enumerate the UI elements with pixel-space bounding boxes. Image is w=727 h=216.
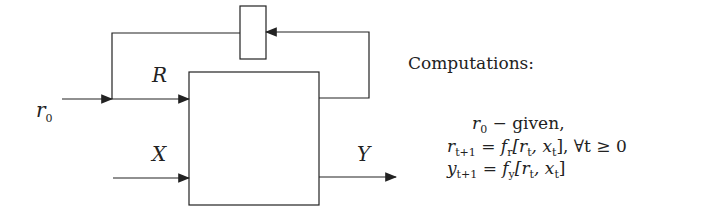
- y-label: Y: [357, 142, 370, 166]
- main-block: [189, 72, 319, 205]
- equation-r0: r0 − given,: [472, 113, 565, 136]
- equation-r-update: rt+1 = fr[rt, xt], ∀t ≥ 0: [447, 136, 627, 159]
- block-diagram: [0, 0, 727, 216]
- feedback-line: [266, 32, 369, 98]
- computations-title: Computations:: [408, 53, 534, 73]
- feedback-return-line: [112, 33, 240, 99]
- equation-y-update: yt+1 = fy[rt, xt]: [447, 158, 565, 181]
- r-label: R: [152, 63, 167, 87]
- x-label: X: [152, 142, 166, 166]
- r0-label: r0: [36, 98, 53, 125]
- delay-block: [240, 6, 266, 59]
